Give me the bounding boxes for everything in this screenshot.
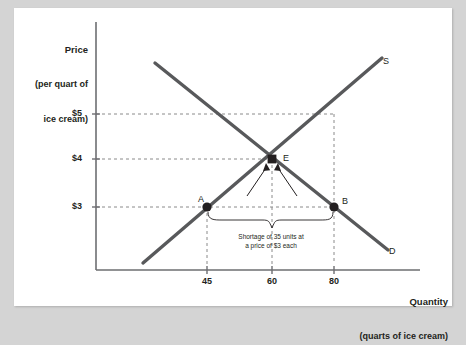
x-axis-title-line2: (quarts of ice cream) bbox=[320, 331, 448, 342]
point-b-label: B bbox=[342, 196, 348, 207]
shortage-brace bbox=[208, 212, 333, 228]
y-tick-label-5: $5 bbox=[72, 108, 82, 119]
y-axis-title-line1: Price bbox=[14, 44, 88, 56]
x-tick-label-80: 80 bbox=[319, 276, 349, 287]
shortage-annotation: Shortage of 35 units at a price of $3 ea… bbox=[206, 232, 336, 251]
shortage-annotation-line1: Shortage of 35 units at bbox=[206, 232, 336, 241]
arrow-from-b-shaft bbox=[278, 168, 297, 196]
point-b-marker bbox=[329, 202, 338, 211]
shortage-annotation-line2: a price of $3 each bbox=[206, 241, 336, 250]
y-tick-label-4: $4 bbox=[72, 153, 82, 164]
demand-curve-label: D bbox=[389, 246, 396, 257]
point-e-marker bbox=[268, 155, 277, 164]
x-tick-label-60: 60 bbox=[257, 276, 287, 287]
point-e-label: E bbox=[283, 153, 289, 164]
x-tick-label-45: 45 bbox=[192, 276, 222, 287]
supply-curve-label: S bbox=[383, 56, 389, 67]
y-axis-title-line2: (per quart of bbox=[14, 79, 88, 90]
arrow-from-a-head bbox=[263, 163, 270, 171]
y-axis-title: Price (per quart of ice cream) bbox=[14, 20, 88, 149]
x-axis-title-line1: Quantity bbox=[320, 296, 448, 308]
point-a-label: A bbox=[198, 194, 204, 205]
y-tick-label-3: $3 bbox=[72, 201, 82, 212]
